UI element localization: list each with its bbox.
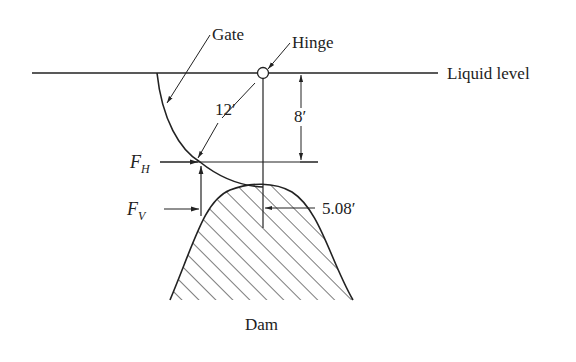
hinge-icon (258, 68, 269, 79)
fv-label: FV (126, 199, 147, 223)
offset-label: 5.08′ (322, 199, 355, 218)
hinge-label: Hinge (292, 33, 334, 52)
dam-label: Dam (245, 315, 278, 334)
fh-label: FH (129, 152, 151, 176)
gate-arc (157, 73, 263, 187)
liquid-level-label: Liquid level (447, 64, 530, 83)
gate-dam-diagram: Liquid level Hinge Gate 12′ 8′ FH FV Dam… (0, 0, 576, 362)
gate-label: Gate (212, 25, 244, 44)
radius-label: 12′ (215, 100, 236, 119)
depth-label: 8′ (294, 107, 306, 126)
dam-body (150, 170, 370, 310)
